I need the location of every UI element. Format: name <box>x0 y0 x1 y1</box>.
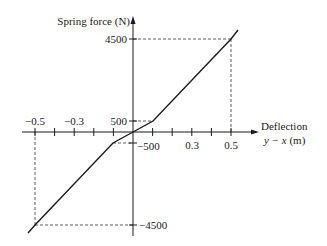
y-tick-label-neg500: −500 <box>137 140 160 152</box>
x-tick-label-neg0.3: −0.3 <box>64 115 84 127</box>
y-tick-label-500: 500 <box>111 115 128 127</box>
x-axis-variable: y − x <box>263 134 287 146</box>
x-tick-label-0.5: 0.5 <box>224 139 238 151</box>
x-axis-unit: (m) <box>287 134 306 147</box>
y-axis-label: Spring force (N) <box>57 15 130 28</box>
x-axis-arrow-icon <box>251 130 259 135</box>
x-axis-label-line2: y − x (m) <box>263 134 306 147</box>
y-tick-label-4500: 4500 <box>105 33 128 45</box>
spring-force-chart: −0.5 −0.3 0.3 0.5 4500 500 −500 −4500 Sp… <box>0 0 327 246</box>
y-tick-label-neg4500: −4500 <box>139 219 168 231</box>
x-tick-label-0.3: 0.3 <box>185 139 199 151</box>
x-axis-label-line1: Deflection <box>261 120 308 132</box>
x-tick-label-neg0.5: −0.5 <box>25 115 45 127</box>
y-axis-arrow-icon <box>131 16 136 24</box>
